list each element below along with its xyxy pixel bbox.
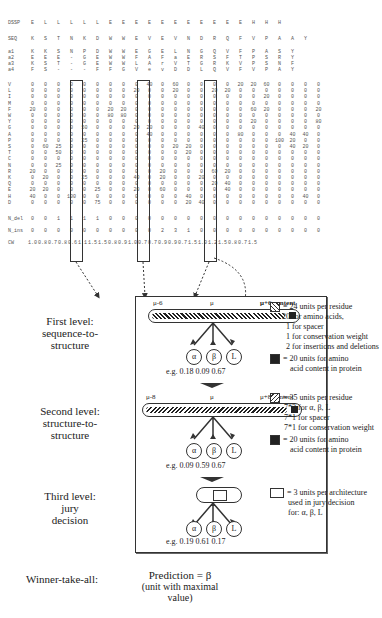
legend-text: 20 for amino acids, (270, 312, 379, 322)
window-left-label: μ-8 (146, 393, 156, 401)
window-center-label: μ (210, 299, 214, 307)
level-label-second: Second level: structure-to- structure (20, 405, 120, 441)
legend-first-level: = 24 units per residue 20 for amino acid… (270, 302, 379, 374)
level-title: First level: (20, 315, 120, 327)
example-values-third: e.g. 0.19 0.61 0.17 (166, 537, 226, 546)
legend-text: = 35 units per residue (283, 393, 352, 402)
legend-text: 1 for conservation weight (270, 332, 379, 342)
down-triangle (200, 477, 224, 482)
output-beta: β (206, 443, 222, 459)
dashed-arrows (0, 0, 382, 300)
legend-text: = 24 units per residue (283, 302, 352, 311)
output-loop: L (226, 443, 242, 459)
output-beta: β (206, 349, 222, 365)
legend-second-level: = 35 units per residue 7*3 for α, β, L 7… (270, 393, 374, 455)
window-left-label: μ-6 (153, 299, 163, 307)
level-sub: decision (20, 514, 120, 526)
example-values-first: e.g. 0.18 0.09 0.67 (166, 367, 226, 376)
legend-text: for: α, β, L (270, 508, 367, 518)
window-center-label: μ (210, 393, 214, 401)
legend-text: acid content in protein (270, 445, 374, 455)
solid-swatch-icon (270, 435, 280, 445)
down-triangle (200, 383, 224, 388)
fan-arrows-second (176, 417, 256, 443)
winner-label: Winner-take-all: (26, 573, 98, 585)
jury-swatch-icon (270, 488, 284, 498)
legend-text: 7*1 for spacer (270, 413, 374, 423)
solid-swatch-icon (270, 354, 280, 364)
prediction-block: Prediction = β (unit with maximal value) (130, 569, 230, 603)
output-beta: β (206, 521, 222, 537)
hatch-swatch-icon (270, 393, 280, 403)
jury-unit (196, 487, 242, 503)
jury-icon (213, 490, 227, 501)
level-title: Second level: (20, 405, 120, 417)
output-alpha: α (186, 521, 202, 537)
legend-text: 1 for spacer (270, 322, 379, 332)
prediction-value: Prediction = β (130, 569, 230, 581)
legend-text: = 20 units for amino (283, 435, 348, 444)
output-loop: L (226, 349, 242, 365)
level-sub: structure (20, 429, 120, 441)
prediction-note: (unit with maximal value) (130, 581, 230, 603)
output-alpha: α (186, 349, 202, 365)
legend-text: 2 for insertions and deletions (270, 342, 379, 352)
legend-text: 7*3 for α, β, L (270, 403, 374, 413)
level-title: Third level: (20, 490, 120, 502)
level-sub: structure (20, 339, 120, 351)
example-values-second: e.g. 0.09 0.59 0.67 (166, 461, 226, 470)
legend-text: 7*1 for conservation weight (270, 423, 374, 433)
fan-arrows-first (176, 323, 256, 349)
legend-text: = 20 units for amino (283, 354, 348, 363)
output-loop: L (226, 521, 242, 537)
hatch-swatch-icon (270, 302, 280, 312)
level-label-third: Third level: jury decision (20, 490, 120, 526)
level-sub: jury (20, 502, 120, 514)
legend-text: used in jury decision (270, 498, 367, 508)
legend-text: acid content in protein (270, 364, 379, 374)
legend-text: = 3 units per architecture (287, 488, 367, 497)
output-alpha: α (186, 443, 202, 459)
level-label-first: First level: sequence-to- structure (20, 315, 120, 351)
legend-third-level: = 3 units per architecture used in jury … (270, 488, 367, 518)
level-sub: sequence-to- (20, 327, 120, 339)
level-sub: structure-to- (20, 417, 120, 429)
